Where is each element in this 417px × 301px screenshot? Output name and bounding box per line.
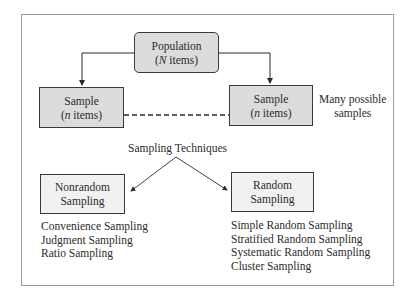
note-line-2: samples (319, 107, 386, 121)
sample-left-count: (n items) (61, 108, 102, 122)
random-title-2: Sampling (250, 192, 294, 206)
arrow-population-to-right-sample (219, 53, 270, 83)
sample-right-label: Sample (254, 92, 289, 106)
population-box: Population (N items) (134, 32, 219, 73)
arrow-population-to-left-sample (82, 53, 134, 85)
random-title-1: Random (253, 178, 292, 192)
nonrandom-title-1: Nonrandom (55, 180, 110, 194)
sample-left-label: Sample (64, 94, 99, 108)
sample-right-box: Sample (n items) (229, 85, 313, 126)
many-samples-note: Many possible samples (319, 93, 386, 120)
population-label: Population (152, 39, 202, 53)
list-item: Judgment Sampling (41, 234, 148, 248)
arrow-to-random (176, 157, 227, 190)
sampling-techniques-label: Sampling Techniques (128, 142, 227, 156)
list-item: Systematic Random Sampling (231, 246, 370, 260)
population-count: (N items) (155, 53, 198, 67)
list-item: Cluster Sampling (231, 260, 370, 274)
nonrandom-title-2: Sampling (60, 194, 104, 208)
random-box: Random Sampling (231, 172, 314, 212)
random-methods-list: Simple Random Sampling Stratified Random… (231, 219, 370, 273)
list-item: Stratified Random Sampling (231, 233, 370, 247)
arrow-to-nonrandom (131, 157, 176, 191)
list-item: Ratio Sampling (41, 247, 148, 261)
list-item: Convenience Sampling (41, 220, 148, 234)
sample-right-count: (n items) (250, 106, 291, 120)
sample-left-box: Sample (n items) (39, 87, 124, 128)
list-item: Simple Random Sampling (231, 219, 370, 233)
note-line-1: Many possible (319, 93, 386, 107)
nonrandom-methods-list: Convenience Sampling Judgment Sampling R… (41, 220, 148, 261)
nonrandom-box: Nonrandom Sampling (40, 174, 125, 214)
